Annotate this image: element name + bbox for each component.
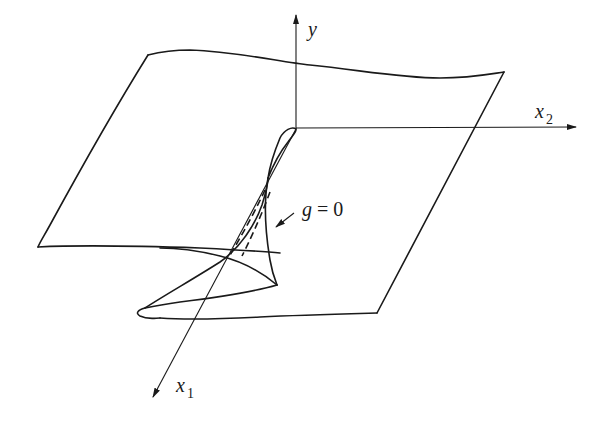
y-axis-label: y xyxy=(306,18,317,41)
x1-axis-label-base: x xyxy=(175,374,185,396)
fold-region xyxy=(138,128,297,318)
annotation-rel: = xyxy=(312,198,333,220)
annotation-label: g = 0 xyxy=(302,198,343,221)
x2-axis xyxy=(296,127,576,128)
x1-axis xyxy=(153,129,296,397)
annotation-rhs: 0 xyxy=(333,198,343,220)
surface-right-edge xyxy=(377,72,504,313)
surface-left-lower-edge xyxy=(38,246,280,253)
fold-right-sheet xyxy=(266,178,277,285)
annotation-lhs: g xyxy=(302,198,312,221)
fold-upper-strand xyxy=(145,178,268,308)
annotation-arrow xyxy=(276,213,294,227)
fold-lower-front xyxy=(160,248,277,285)
fold-surface-diagram: y x 2 x 1 g = 0 xyxy=(0,0,599,421)
surface-bottom-edge xyxy=(160,313,377,319)
x1-axis-label-subscript: 1 xyxy=(187,386,194,401)
surface xyxy=(38,50,504,319)
fold-lower-sheet xyxy=(138,285,277,319)
x2-axis-label-subscript: 2 xyxy=(546,112,553,127)
surface-top-edge xyxy=(148,50,504,78)
fold-curve-annotation: g = 0 xyxy=(276,198,343,227)
x2-axis-label: x 2 xyxy=(534,100,553,127)
x1-axis-label: x 1 xyxy=(175,374,194,401)
x2-axis-label-base: x xyxy=(534,100,544,122)
surface-left-edge xyxy=(38,55,148,247)
